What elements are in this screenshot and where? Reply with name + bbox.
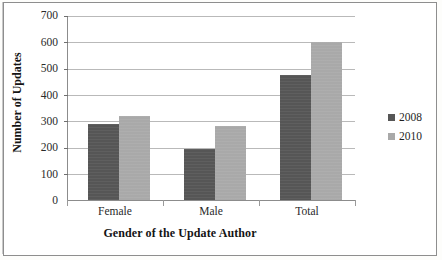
y-tick-300: 300	[24, 116, 58, 128]
y-tick-500: 500	[24, 63, 58, 75]
x-axis-title: Gender of the Update Author	[0, 226, 360, 241]
bar-total-2010[interactable]	[311, 42, 342, 200]
y-axis-title: Number of Updates	[10, 28, 25, 178]
y-tick-0: 0	[24, 195, 58, 207]
y-tick-700: 700	[24, 10, 58, 22]
gridline-700	[68, 16, 355, 17]
legend-label-2008: 2008	[399, 112, 422, 124]
chart-page: 700 600 500 400 300 200 100 0	[0, 0, 442, 260]
y-tick-100: 100	[24, 169, 58, 181]
bar-female-2008[interactable]	[88, 124, 119, 200]
bar-female-2010[interactable]	[119, 116, 150, 200]
bar-male-2010[interactable]	[215, 126, 246, 200]
bar-total-2008[interactable]	[280, 75, 311, 200]
x-tick-sep-3	[355, 200, 356, 206]
chart-legend: 2008 2010	[388, 112, 422, 149]
y-tick-600: 600	[24, 37, 58, 49]
legend-swatch-icon-2010	[388, 133, 395, 140]
bar-male-2008[interactable]	[184, 149, 215, 200]
bar-chart: 700 600 500 400 300 200 100 0	[0, 0, 442, 260]
legend-item-2010[interactable]: 2010	[388, 131, 422, 143]
plot-area	[68, 16, 355, 200]
y-tick-200: 200	[24, 142, 58, 154]
x-tick-label-total: Total	[259, 205, 355, 218]
legend-swatch-icon-2008	[388, 114, 395, 121]
x-tick-label-female: Female	[67, 205, 163, 218]
legend-label-2010: 2010	[399, 131, 422, 143]
x-axis-line	[67, 200, 356, 201]
x-tick-label-male: Male	[163, 205, 259, 218]
legend-item-2008[interactable]: 2008	[388, 112, 422, 124]
y-tick-400: 400	[24, 90, 58, 102]
